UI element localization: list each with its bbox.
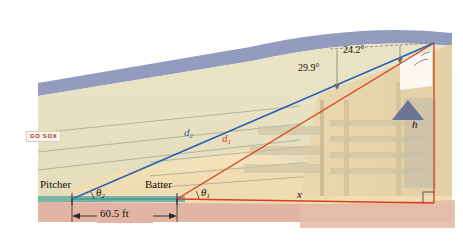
theta1-label: θ1 (201, 186, 210, 199)
d1-subscript: 1 (228, 138, 231, 145)
theta1-subscript: 1 (206, 192, 209, 199)
d2-subscript: 2 (190, 132, 193, 139)
pitcher-label: Pitcher (40, 178, 71, 190)
go-sox-sign: GO SOX (26, 131, 61, 142)
theta2-label: θ2 (96, 186, 105, 199)
height-h-label: h (412, 118, 418, 130)
theta2-subscript: 2 (101, 192, 104, 199)
angle-upper-label: 24.2° (343, 44, 365, 55)
horizontal-x-label: x (297, 188, 302, 200)
diagram-canvas: GO SOX Pitcher Batter 60.5 ft θ2 θ1 d2 d… (0, 0, 463, 245)
d2-label: d2 (184, 126, 193, 139)
d1-label: d1 (222, 132, 231, 145)
diagram-svg (0, 0, 463, 245)
angle-lower-label: 29.9° (298, 62, 320, 73)
batter-label: Batter (145, 178, 172, 190)
distance-60ft-label: 60.5 ft (100, 207, 129, 219)
